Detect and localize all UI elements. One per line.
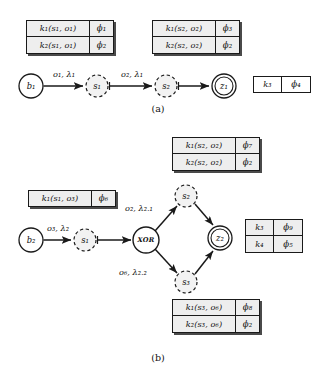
edge-label-xor-s2b: o₂, λ₂.₁ [125, 204, 153, 212]
edge-label-b2-s1b: o₃, λ₂ [47, 224, 69, 232]
table-cell-phi: ϕ₂ [236, 316, 260, 333]
edge-label-s1-s2: o₂, λ₁ [121, 70, 143, 78]
table-cell-key: k₁(s₂, o₂) [152, 20, 216, 37]
table-row: k₁(s₂, o₂) ϕ₃ [152, 20, 240, 37]
table-cell-key: k₁(s₂, o₂) [172, 137, 236, 154]
table-row: k₃ ϕ₉ [245, 219, 303, 236]
node-label-b1: b₁ [27, 82, 36, 90]
table-cell-key: k₂(s₁, o₁) [26, 37, 90, 54]
table-cell-key: k₃ [253, 76, 282, 93]
table-row: k₃ ϕ₄ [253, 76, 311, 93]
table-row: k₁(s₁, o₁) ϕ₁ [26, 20, 114, 37]
node-label-xor: XOR [138, 237, 155, 244]
table-cell-phi: ϕ₃ [216, 20, 240, 37]
table-cell-phi: ϕ₇ [236, 137, 260, 154]
edge-label-b1-s1: o₁, λ₁ [53, 70, 75, 78]
node-label-s1: s₁ [93, 82, 101, 90]
table-cell-phi: ϕ₂ [216, 37, 240, 54]
edge-xor-s2b [155, 206, 177, 231]
table-row: k₂(s₃, o₆) ϕ₂ [172, 316, 260, 333]
table-row: k₁(s₁, o₃) ϕ₆ [28, 190, 116, 207]
edge-s3b-z2 [195, 251, 213, 274]
table-a-standalone: k₃ ϕ₄ [253, 76, 311, 93]
figure-root: k₁(s₁, o₁) ϕ₁ k₂(s₁, o₁) ϕ₂ k₁(s₂, o₂) ϕ… [0, 0, 323, 382]
table-row: k₄ ϕ₅ [245, 236, 303, 253]
table-cell-phi: ϕ₂ [90, 37, 114, 54]
table-cell-key: k₂(s₃, o₆) [172, 316, 236, 333]
table-cell-key: k₂(s₂, o₂) [152, 37, 216, 54]
node-label-s2b: s₂ [182, 192, 190, 200]
table-cell-key: k₂(s₂, o₂) [172, 154, 236, 171]
table-cell-key: k₁(s₁, o₃) [28, 190, 92, 207]
table-row: k₂(s₁, o₁) ϕ₂ [26, 37, 114, 54]
table-cell-phi: ϕ₆ [92, 190, 116, 207]
edge-xor-s3b [155, 249, 177, 273]
table-cell-phi: ϕ₄ [282, 76, 311, 93]
table-cell-phi: ϕ₉ [274, 219, 303, 236]
table-row: k₁(s₂, o₂) ϕ₇ [172, 137, 260, 154]
node-label-s2: s₂ [162, 82, 170, 90]
caption-b: (b) [151, 352, 165, 363]
table-row: k₂(s₂, o₂) ϕ₂ [152, 37, 240, 54]
table-b-bottom: k₁(s₃, o₆) ϕ₈ k₂(s₃, o₆) ϕ₂ [172, 299, 260, 333]
table-b-right: k₃ ϕ₉ k₄ ϕ₅ [245, 219, 303, 253]
edge-s2b-z2 [195, 204, 213, 225]
table-cell-key: k₁(s₁, o₁) [26, 20, 90, 37]
node-label-s1b: s₁ [81, 236, 89, 244]
table-cell-key: k₁(s₃, o₆) [172, 299, 236, 316]
table-a-left: k₁(s₁, o₁) ϕ₁ k₂(s₁, o₁) ϕ₂ [26, 20, 114, 54]
caption-a: (a) [151, 103, 164, 114]
node-label-z2: z₂ [216, 234, 224, 242]
node-label-b2: b₂ [27, 236, 36, 244]
node-label-z1: z₁ [220, 82, 228, 90]
table-cell-key: k₃ [245, 219, 274, 236]
table-cell-phi: ϕ₅ [274, 236, 303, 253]
table-a-right: k₁(s₂, o₂) ϕ₃ k₂(s₂, o₂) ϕ₂ [152, 20, 240, 54]
node-label-s3b: s₃ [182, 278, 190, 286]
table-cell-phi: ϕ₁ [90, 20, 114, 37]
edge-label-xor-s3b: o₆, λ₂.₂ [119, 268, 147, 276]
table-cell-phi: ϕ₈ [236, 299, 260, 316]
table-row: k₁(s₃, o₆) ϕ₈ [172, 299, 260, 316]
table-b-left: k₁(s₁, o₃) ϕ₆ [28, 190, 116, 207]
table-cell-phi: ϕ₂ [236, 154, 260, 171]
table-row: k₂(s₂, o₂) ϕ₂ [172, 154, 260, 171]
table-b-top: k₁(s₂, o₂) ϕ₇ k₂(s₂, o₂) ϕ₂ [172, 137, 260, 171]
table-cell-key: k₄ [245, 236, 274, 253]
